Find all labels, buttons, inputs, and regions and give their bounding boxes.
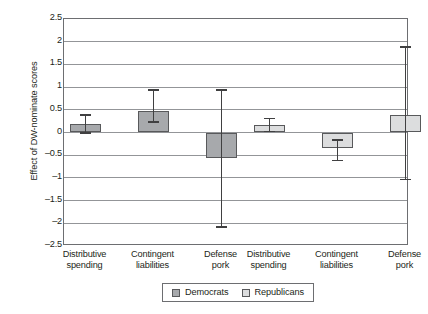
error-bar-cap — [400, 179, 411, 181]
republicans-swatch-icon — [242, 289, 250, 297]
error-bar-republicans-1 — [337, 139, 339, 161]
chart-legend: Democrats Republicans — [162, 283, 314, 302]
plot-area — [63, 18, 408, 245]
y-axis-tick-label: –1 — [22, 172, 62, 181]
error-bar-cap — [264, 131, 275, 133]
gridline — [64, 223, 407, 224]
y-axis-tick-label: 2.5 — [22, 13, 62, 22]
error-bar-cap — [148, 121, 159, 123]
x-axis-tick-label: Contingentliabilities — [299, 249, 375, 271]
error-bar-cap — [332, 160, 343, 162]
gridline — [64, 41, 407, 42]
y-axis-tick-label: –1.5 — [22, 195, 62, 204]
democrats-swatch-icon — [172, 289, 180, 297]
y-axis-tick-label: 1 — [22, 81, 62, 90]
y-axis-tick-label: 0 — [22, 127, 62, 136]
x-axis-tick-label: Distributivespending — [231, 249, 307, 271]
legend-label-democrats: Democrats — [185, 288, 229, 297]
legend-label-republicans: Republicans — [255, 288, 304, 297]
error-bar-democrats-0 — [85, 114, 87, 134]
x-axis-tick-label: Contingentliabilities — [115, 249, 191, 271]
x-axis-tick-label: Defensepork — [367, 249, 428, 271]
error-bar-cap — [216, 226, 227, 228]
error-bar-republicans-2 — [405, 46, 407, 180]
y-axis-tick-label: 1.5 — [22, 58, 62, 67]
error-bar-cap — [80, 114, 91, 116]
y-axis-tick-label: –2.5 — [22, 240, 62, 249]
error-bar-cap — [216, 89, 227, 91]
error-bar-cap — [332, 139, 343, 141]
legend-item-democrats: Democrats — [172, 288, 229, 297]
error-bar-cap — [264, 118, 275, 120]
gridline — [64, 200, 407, 201]
error-bar-cap — [148, 89, 159, 91]
error-bar-cap — [80, 132, 91, 134]
legend-item-republicans: Republicans — [242, 288, 304, 297]
y-axis-tick-label: –2 — [22, 217, 62, 226]
y-axis-tick-label: 2 — [22, 36, 62, 45]
y-axis-tick-label: 0.5 — [22, 104, 62, 113]
x-axis-tick-label: Distributivespending — [47, 249, 123, 271]
error-bar-cap — [400, 46, 411, 48]
gridline — [64, 177, 407, 178]
gridline — [64, 109, 407, 110]
error-bar-democrats-2 — [221, 89, 223, 227]
y-axis-tick-label: –0.5 — [22, 149, 62, 158]
error-bar-democrats-1 — [153, 89, 155, 123]
chart-figure: Effect of DW-nominate scores 2.521.510.5… — [0, 0, 428, 314]
gridline — [64, 87, 407, 88]
gridline — [64, 64, 407, 65]
